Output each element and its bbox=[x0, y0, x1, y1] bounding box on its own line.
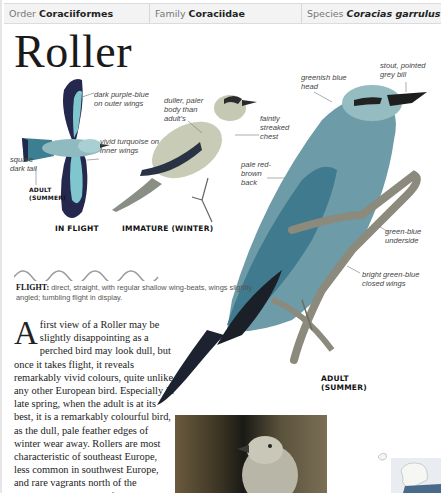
label-immature-chest: faintly streaked chest bbox=[260, 114, 289, 141]
label-adult-underside: green-blue underside bbox=[385, 227, 421, 245]
label-line: pale red- bbox=[241, 160, 271, 169]
drop-cap: A bbox=[14, 321, 38, 345]
flight-pattern-icon bbox=[14, 267, 166, 281]
label-adult-head: greenish blue head bbox=[301, 73, 347, 91]
species-description: A first view of a Roller may be slightly… bbox=[14, 318, 174, 493]
europe-map-icon bbox=[391, 458, 441, 493]
label-line: square bbox=[10, 155, 37, 164]
label-line: duller, paler bbox=[164, 96, 203, 105]
photo-bird-head bbox=[175, 415, 327, 493]
label-line: bright green-blue bbox=[362, 270, 419, 279]
label-adult-wings: bright green-blue closed wings bbox=[362, 270, 419, 288]
flight-age-caption: ADULT (SUMMER) bbox=[29, 186, 66, 201]
iceland-icon bbox=[377, 452, 389, 462]
label-line: dark tail bbox=[10, 164, 37, 173]
label-line: back bbox=[241, 178, 271, 187]
label-line: grey bill bbox=[380, 70, 426, 79]
distribution-map bbox=[391, 458, 441, 493]
label-line: on outer wings bbox=[94, 99, 149, 108]
label-line: closed wings bbox=[362, 279, 419, 288]
label-line: adult's bbox=[164, 114, 203, 123]
immature-caption: IMMATURE (WINTER) bbox=[122, 224, 213, 233]
label-inner-wings: vivid turquoise on inner wings bbox=[100, 137, 159, 155]
flight-note-text: direct, straight, with regular shallow w… bbox=[16, 283, 252, 302]
label-line: green-blue bbox=[385, 227, 421, 236]
label-line: stout, pointed bbox=[380, 61, 426, 70]
label-line: streaked bbox=[260, 123, 289, 132]
label-line: body than bbox=[164, 105, 203, 114]
flight-caption: IN FLIGHT bbox=[55, 224, 99, 233]
roller-photo bbox=[175, 415, 327, 493]
label-tail: square dark tail bbox=[10, 155, 37, 173]
label-immature-body: duller, paler body than adult's bbox=[164, 96, 203, 123]
caption-line: ADULT bbox=[321, 374, 367, 383]
label-line: head bbox=[301, 82, 347, 91]
caption-line: (SUMMER) bbox=[29, 194, 66, 202]
label-line: underside bbox=[385, 236, 421, 245]
label-line: faintly bbox=[260, 114, 289, 123]
label-outer-wings: dark purple-blue on outer wings bbox=[94, 90, 149, 108]
flight-note: FLIGHT: direct, straight, with regular s… bbox=[16, 283, 274, 303]
label-line: inner wings bbox=[100, 146, 159, 155]
flight-note-heading: FLIGHT: bbox=[16, 283, 49, 292]
field-guide-page: Order Coraciiformes Family Coraciidae Sp… bbox=[0, 0, 441, 493]
label-line: chest bbox=[260, 132, 289, 141]
label-adult-bill: stout, pointed grey bill bbox=[380, 61, 426, 79]
caption-line: ADULT bbox=[29, 186, 66, 194]
caption-line: (SUMMER) bbox=[321, 383, 367, 392]
label-line: greenish blue bbox=[301, 73, 347, 82]
label-line: dark purple-blue bbox=[94, 90, 149, 99]
label-line: brown bbox=[241, 169, 271, 178]
label-adult-back: pale red- brown back bbox=[241, 160, 271, 187]
label-line: vivid turquoise on bbox=[100, 137, 159, 146]
adult-caption: ADULT (SUMMER) bbox=[321, 374, 367, 392]
